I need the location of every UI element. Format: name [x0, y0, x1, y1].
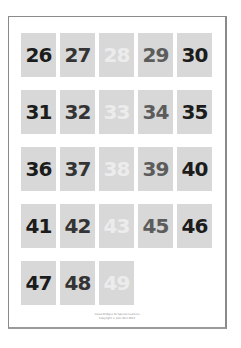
number-tile: 43	[99, 204, 134, 248]
number-tile: 40	[177, 147, 212, 191]
number-tile: 29	[138, 33, 173, 77]
number-tile: 42	[60, 204, 95, 248]
number-tile: 49	[99, 261, 134, 305]
worksheet-page: 26 27 28 29 30 31 32 33 34 35 36 37 38 3…	[8, 16, 227, 329]
number-tile: 45	[138, 204, 173, 248]
grid-row: 36 37 38 39 40	[21, 147, 217, 191]
number-tile: 31	[21, 90, 56, 134]
number-tile: 28	[99, 33, 134, 77]
number-tile: 27	[60, 33, 95, 77]
footer-line-copyright: Copyright © Julie Weil 2013	[9, 317, 225, 321]
number-tile: 35	[177, 90, 212, 134]
number-tile: 47	[21, 261, 56, 305]
number-tile: 48	[60, 261, 95, 305]
number-tile: 37	[60, 147, 95, 191]
number-tile: 26	[21, 33, 56, 77]
number-tile: 46	[177, 204, 212, 248]
number-tile: 36	[21, 147, 56, 191]
number-tile: 39	[138, 147, 173, 191]
number-tile: 30	[177, 33, 212, 77]
number-tile: 34	[138, 90, 173, 134]
copyright-footer: Visual Bridges for Special Learners Copy…	[9, 313, 225, 320]
number-tile: 32	[60, 90, 95, 134]
number-tile: 33	[99, 90, 134, 134]
number-tile: 38	[99, 147, 134, 191]
number-grid: 26 27 28 29 30 31 32 33 34 35 36 37 38 3…	[21, 33, 217, 318]
grid-row: 41 42 43 45 46	[21, 204, 217, 248]
number-tile: 41	[21, 204, 56, 248]
grid-row: 47 48 49	[21, 261, 217, 305]
grid-row: 31 32 33 34 35	[21, 90, 217, 134]
grid-row: 26 27 28 29 30	[21, 33, 217, 77]
